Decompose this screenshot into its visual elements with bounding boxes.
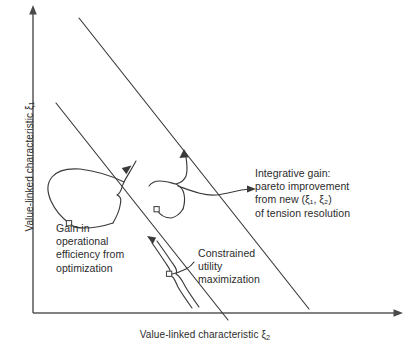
arrowhead-operational-up [122,166,132,175]
arrowhead-integrative-up [179,149,189,158]
y-axis-arrowhead [29,5,37,15]
y-axis-title-text: Value-linked characteristic [24,110,35,232]
x-axis-title-subscript: 2 [266,333,270,342]
brace-integrative-gain [149,149,256,218]
y-axis-title-symbol: ξ [24,105,35,110]
annotation-constrained-utility: Constrained utility maximization [198,247,260,287]
x-axis-arrowhead [394,309,404,317]
y-axis-title: Value-linked characteristic ξ1 [24,51,37,281]
figure-canvas: Gain in operational efficiency from opti… [0,0,410,351]
x-axis-title-text: Value-linked characteristic [140,329,262,340]
brace-operational-efficiency [48,161,136,228]
annotation-integrative-gain: Integrative gain: pareto improvement fro… [255,167,350,220]
point-marker-constrained [167,271,172,276]
annotation-gain-operational-efficiency: Gain in operational efficiency from opti… [56,222,124,275]
point-marker-integrative [154,207,159,212]
x-axis-title: Value-linked characteristic ξ2 [0,329,410,342]
brace-constrained-utility [147,236,199,308]
inner-frontier-line [56,103,228,320]
y-axis-title-subscript: 1 [27,101,36,105]
